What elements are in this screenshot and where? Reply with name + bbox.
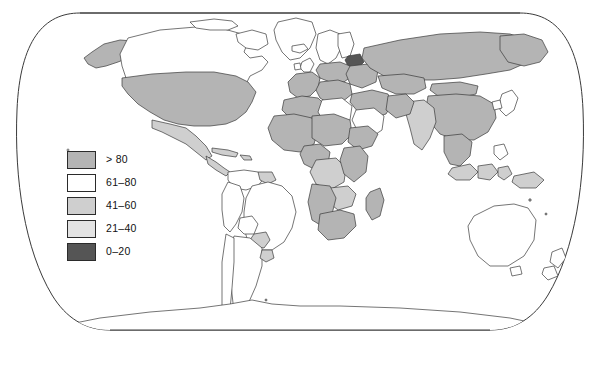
region-ireland [294,63,301,70]
region-korea [492,100,502,110]
region-tasmania [510,266,522,276]
legend-swatch-61-80 [67,174,96,192]
island-marker [545,213,547,215]
legend-item: 0–20 [67,242,187,261]
island-marker [529,199,531,201]
legend-item: 21–40 [67,219,187,238]
legend-label-0-20: 0–20 [106,246,131,257]
world-choropleth-figure: .land { stroke:#3a3a3a; stroke-width:0.7… [0,0,600,367]
legend-swatch-21-40 [67,220,96,238]
legend-label-41-60: 41–60 [106,200,137,211]
legend-swatch-41-60 [67,197,96,215]
legend-swatch-0-20 [67,243,96,261]
legend-label-21-40: 21–40 [106,223,137,234]
legend-swatch-gt80 [67,151,96,169]
legend-label-gt80: > 80 [106,154,128,165]
legend-item: > 80 [67,150,187,169]
legend-label-61-80: 61–80 [106,177,137,188]
island-marker [265,299,267,301]
legend-item: 61–80 [67,173,187,192]
map-legend: > 80 61–80 41–60 21–40 0–20 [67,150,187,261]
legend-item: 41–60 [67,196,187,215]
